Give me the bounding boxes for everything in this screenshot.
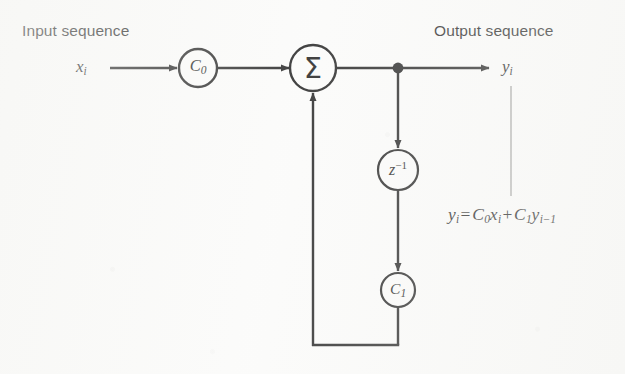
filter-equation: yi=C0xi+C1yi−1: [448, 206, 556, 226]
input-sequence-label: Input sequence: [22, 23, 129, 39]
equation-term2-variable-subscript: i−1: [540, 213, 556, 225]
gain-c1-subscript: 1: [400, 287, 406, 299]
equation-term2-coefficient: C: [514, 204, 526, 224]
equation-term2-variable: y: [532, 204, 540, 224]
equation-plus: +: [501, 204, 514, 224]
gain-c0-label: C0: [178, 58, 218, 77]
gain-c0-symbol: C: [190, 56, 201, 75]
input-signal-symbol: x: [76, 57, 84, 76]
delay-label: z−1: [378, 160, 418, 178]
gain-c0-subscript: 0: [201, 64, 207, 76]
equation-term1-variable: x: [490, 204, 498, 224]
input-signal-subscript: i: [84, 65, 87, 77]
branch-junction-dot: [393, 63, 404, 74]
equation-term1-coefficient: C: [472, 204, 484, 224]
gain-c1-symbol: C: [390, 280, 400, 297]
equation-lhs-symbol: y: [448, 204, 456, 224]
summer-symbol: Σ: [288, 54, 338, 83]
equation-equals: =: [459, 204, 472, 224]
output-signal-symbol: y: [502, 57, 510, 76]
delay-superscript: −1: [395, 159, 407, 171]
output-signal-label: yi: [502, 58, 513, 78]
gain-c1-label: C1: [378, 281, 418, 300]
input-signal-label: xi: [76, 58, 87, 78]
signal-flow-diagram: Input sequence Output sequence xi yi C0 …: [0, 0, 625, 374]
output-signal-subscript: i: [510, 65, 513, 77]
output-sequence-label: Output sequence: [434, 23, 554, 39]
